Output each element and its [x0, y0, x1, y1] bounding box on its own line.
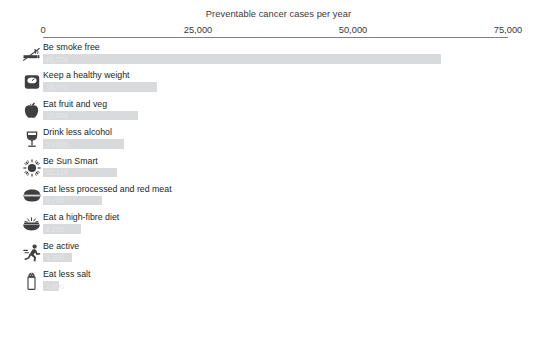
running-person-icon — [22, 242, 41, 264]
fibre-bowl-icon — [22, 213, 41, 235]
bar-row: Be active 4,800 — [0, 240, 557, 268]
bar-track: 15,600 — [43, 111, 138, 121]
bar-label: Eat a high-fibre diet — [43, 211, 119, 224]
bar-row: Eat a high-fibre diet 6,200 — [0, 211, 557, 239]
preventable-cancer-bar-chart: Preventable cancer cases per year 0 25,0… — [0, 0, 557, 341]
axis-tick-75000: 75,000 — [494, 25, 522, 35]
bar: 6,200 — [43, 224, 81, 234]
bar-label: Eat fruit and veg — [43, 98, 107, 111]
bar-value-label: 2,600 — [46, 282, 64, 291]
x-axis: 0 25,000 50,000 75,000 — [43, 22, 508, 38]
bar-label: Be smoke free — [43, 41, 100, 54]
bar-value-label: 6,200 — [46, 225, 64, 234]
bar-track: 2,600 — [43, 281, 59, 291]
salt-shaker-icon — [22, 270, 41, 292]
sun-icon — [22, 157, 41, 179]
apple-icon — [22, 100, 41, 122]
axis-tick-50000: 50,000 — [339, 25, 367, 35]
bar-row: Keep a healthy weight 18,700 — [0, 69, 557, 97]
bar: 18,700 — [43, 82, 157, 92]
bar-rows: Be smoke free 65,200 Keep a healthy weig… — [0, 41, 557, 297]
bar-value-label: 18,700 — [46, 83, 68, 92]
bar-row: Be smoke free 65,200 — [0, 41, 557, 69]
bar-label: Be active — [43, 240, 79, 253]
bar-value-label: 15,600 — [46, 111, 68, 120]
bar: 4,800 — [43, 253, 72, 263]
bar-value-label: 4,800 — [46, 253, 64, 262]
bar-track: 12,100 — [43, 168, 117, 178]
no-smoking-icon — [22, 43, 41, 65]
bar: 15,600 — [43, 111, 138, 121]
bar-track: 6,200 — [43, 224, 81, 234]
bar-track: 65,200 — [43, 54, 441, 64]
bar: 9,700 — [43, 196, 102, 206]
bar-track: 4,800 — [43, 253, 72, 263]
bar: 12,100 — [43, 168, 117, 178]
bar-value-label: 65,200 — [46, 55, 68, 64]
bar-track: 18,700 — [43, 82, 157, 92]
axis-tick-25000: 25,000 — [184, 25, 212, 35]
x-axis-line — [43, 37, 508, 38]
bar-track: 9,700 — [43, 196, 102, 206]
bar: 65,200 — [43, 54, 441, 64]
bar: 2,600 — [43, 281, 59, 291]
bar-row: Be Sun Smart 12,100 — [0, 155, 557, 183]
bar-row: Eat less salt 2,600 — [0, 268, 557, 296]
bar-value-label: 13,300 — [46, 140, 68, 149]
bar-label: Eat less processed and red meat — [43, 183, 172, 196]
weighing-scale-icon — [22, 71, 41, 93]
bar-value-label: 12,100 — [46, 168, 68, 177]
bar-label: Eat less salt — [43, 268, 90, 281]
bar-row: Eat fruit and veg 15,600 — [0, 98, 557, 126]
burger-icon — [22, 185, 41, 207]
bar-row: Eat less processed and red meat 9,700 — [0, 183, 557, 211]
axis-tick-0: 0 — [40, 25, 45, 35]
bar-label: Drink less alcohol — [43, 126, 112, 139]
bar-value-label: 9,700 — [46, 196, 64, 205]
chart-title: Preventable cancer cases per year — [0, 9, 557, 19]
wine-glass-icon — [22, 128, 41, 150]
bar-track: 13,300 — [43, 139, 124, 149]
bar-label: Be Sun Smart — [43, 155, 98, 168]
bar-label: Keep a healthy weight — [43, 69, 130, 82]
bar: 13,300 — [43, 139, 124, 149]
bar-row: Drink less alcohol 13,300 — [0, 126, 557, 154]
